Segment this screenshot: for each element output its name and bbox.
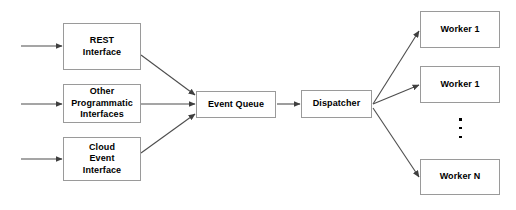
- node-worker-2-label: Worker 1: [438, 79, 481, 91]
- node-event-queue-label: Event Queue: [206, 99, 266, 111]
- node-cloud-event-interface[interactable]: Cloud Event Interface: [63, 137, 141, 181]
- node-worker-1-label: Worker 1: [438, 24, 481, 36]
- node-dispatcher-label: Dispatcher: [311, 98, 363, 110]
- node-cloud-event-interface-label: Cloud Event Interface: [81, 142, 123, 177]
- edge-cloud-to-queue: [141, 114, 195, 153]
- node-worker-n-label: Worker N: [438, 171, 483, 183]
- vertical-ellipsis-icon: [459, 118, 462, 138]
- edge-rest-to-queue: [141, 55, 195, 95]
- node-other-programmatic-interfaces[interactable]: Other Programmatic Interfaces: [63, 84, 141, 123]
- node-worker-n[interactable]: Worker N: [420, 159, 500, 195]
- edge-dispatcher-to-worker-2: [373, 85, 419, 104]
- node-other-programmatic-interfaces-label: Other Programmatic Interfaces: [69, 86, 135, 121]
- node-worker-2[interactable]: Worker 1: [420, 66, 500, 103]
- edge-dispatcher-to-worker-n: [373, 108, 419, 177]
- architecture-diagram: REST Interface Other Programmatic Interf…: [0, 0, 516, 210]
- edge-dispatcher-to-worker-1: [373, 31, 419, 104]
- node-rest-interface-label: REST Interface: [81, 35, 123, 58]
- node-worker-1[interactable]: Worker 1: [420, 11, 500, 48]
- ellipsis-dot: [459, 136, 462, 139]
- node-event-queue[interactable]: Event Queue: [196, 91, 276, 118]
- ellipsis-dot: [459, 127, 462, 130]
- node-dispatcher[interactable]: Dispatcher: [301, 90, 372, 118]
- node-rest-interface[interactable]: REST Interface: [63, 23, 141, 70]
- ellipsis-dot: [459, 118, 462, 121]
